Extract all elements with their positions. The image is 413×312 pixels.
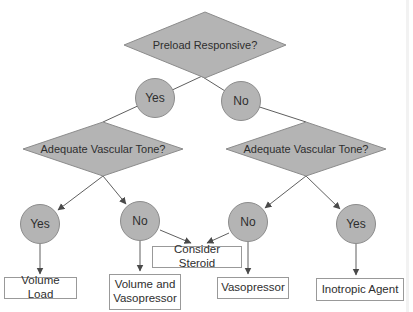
tone-right-yes-circle: Yes xyxy=(336,204,376,244)
preload-diamond-shape xyxy=(124,12,286,78)
vascular-tone-left-diamond-shape xyxy=(23,122,183,176)
tone-left-no-circle: No xyxy=(120,201,160,241)
preload-yes-circle: Yes xyxy=(135,78,175,118)
volume-load-box: Volume Load xyxy=(4,277,77,299)
flowchart-canvas: Preload Responsive? Adequate Vascular To… xyxy=(0,0,413,312)
tone-right-no-circle: No xyxy=(228,202,268,242)
diamond-shapes xyxy=(23,12,386,176)
plain-connector-lines xyxy=(103,71,306,122)
vascular-tone-right-diamond-shape xyxy=(226,122,386,176)
vasopressor-box: Vasopressor xyxy=(217,277,289,299)
volume-and-vasopressor-box: Volume and Vasopressor xyxy=(109,274,181,310)
inotropic-agent-box: Inotropic Agent xyxy=(316,278,404,301)
tone-left-yes-circle: Yes xyxy=(20,204,60,244)
preload-no-circle: No xyxy=(221,81,261,121)
consider-steroid-box: Consider Steroid xyxy=(152,246,242,268)
